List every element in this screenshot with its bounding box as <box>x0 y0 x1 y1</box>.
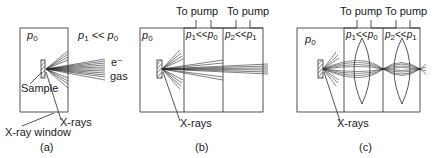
pressure-p2-b: p2<<p1 <box>225 30 257 42</box>
gas-label-a: gas <box>110 71 128 82</box>
caption-c: (c) <box>359 142 372 153</box>
electron-fan-b <box>162 50 268 89</box>
electron-trajectories-c <box>323 52 426 86</box>
pump-port-2-c <box>383 20 396 28</box>
pressure-p0-c: p0 <box>305 34 316 47</box>
sample-a <box>41 60 45 78</box>
pump-label-2-c: To pump <box>385 6 427 17</box>
sample-b <box>157 60 162 78</box>
pump-label-1-c: To pump <box>340 6 382 17</box>
pump-port-1-c <box>344 20 357 28</box>
caption-a: (a) <box>40 142 53 153</box>
window-leader-a <box>22 113 54 126</box>
xray-label-c: X-rays <box>337 118 369 129</box>
window-label-a: X-ray window <box>5 127 71 138</box>
pressure-p2-c: p2<<p1 <box>385 30 417 42</box>
pressure-p1-c: p1<<p0 <box>346 30 378 42</box>
lens-2-c <box>394 38 410 104</box>
pressure-p1-b: p1<<p0 <box>186 30 218 42</box>
sample-c <box>318 60 323 78</box>
caption-b: (b) <box>195 142 208 153</box>
pump-port-1b-c <box>371 20 383 28</box>
pump-port-1-b <box>184 20 196 28</box>
pump-port-2-b <box>223 20 236 28</box>
pump-label-1-b: To pump <box>176 6 218 17</box>
pump-port-1b-b <box>211 20 223 28</box>
electron-label-a: e⁻ <box>111 57 123 68</box>
pressure-p0-b: p0 <box>142 30 153 43</box>
xray-label-b: X-rays <box>180 118 212 129</box>
pump-port-2b-b <box>250 20 263 28</box>
pump-label-2-b: To pump <box>227 6 269 17</box>
sample-label-a: Sample <box>21 83 58 94</box>
pump-port-2b-c <box>410 20 420 28</box>
pressure-p0-a: p0 <box>27 30 38 43</box>
pressure-p1-a: p1 << p0 <box>78 30 118 43</box>
